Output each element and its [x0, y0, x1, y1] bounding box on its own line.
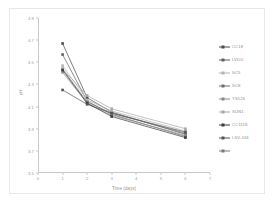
legend-swatch-icon — [219, 70, 230, 75]
data-point-marker — [184, 134, 187, 137]
legend-marker-icon — [222, 58, 225, 61]
data-point-marker — [110, 107, 113, 110]
x-axis-label: Time (days) — [38, 186, 210, 191]
data-point-marker — [61, 53, 64, 56]
y-tick-label: 4.9 — [28, 16, 34, 21]
legend-marker-icon — [222, 123, 225, 126]
x-tick-mark — [38, 173, 39, 175]
legend-item-label: LVDU — [232, 57, 243, 62]
y-tick-label: 3.9 — [28, 126, 34, 131]
data-point-marker — [110, 115, 113, 118]
data-point-marker — [61, 89, 64, 92]
plot-area: 4.94.74.54.34.13.93.73.5 01234567 — [38, 18, 210, 173]
legend-item[interactable]: CC18 — [219, 40, 263, 53]
data-point-marker — [61, 64, 64, 67]
legend-marker-icon — [222, 149, 225, 152]
x-tick-mark — [160, 173, 161, 175]
legend-item[interactable]: SC5 — [219, 66, 263, 79]
y-tick-label: 4.5 — [28, 60, 34, 65]
data-point-marker — [184, 127, 187, 130]
data-point-marker — [61, 69, 64, 72]
x-tick-mark — [111, 173, 112, 175]
x-tick-label: 1 — [61, 176, 63, 181]
legend-item-label: LSV-434 — [232, 135, 249, 140]
chart-figure: pH 4.94.74.54.34.13.93.73.5 01234567 Tim… — [0, 0, 274, 211]
x-tick-label: 7 — [209, 176, 211, 181]
legend-marker-icon — [222, 45, 225, 48]
data-point-marker — [110, 110, 113, 113]
x-tick-mark — [87, 173, 88, 175]
x-tick-mark — [210, 173, 211, 175]
legend-item[interactable] — [219, 144, 263, 157]
legend-swatch-icon — [219, 57, 230, 62]
x-tick-label: 2 — [86, 176, 88, 181]
y-tick-label: 4.1 — [28, 104, 34, 109]
legend-marker-icon — [222, 71, 225, 74]
data-point-marker — [184, 131, 187, 134]
legend-item-label: SC5 — [232, 70, 240, 75]
legend-swatch-icon — [219, 135, 230, 140]
x-tick-label: 3 — [111, 176, 113, 181]
series-line — [63, 66, 186, 131]
data-point-marker — [184, 136, 187, 139]
data-point-marker — [86, 94, 89, 97]
legend-item-label: SUN1 — [232, 109, 244, 114]
x-tick-label: 0 — [37, 176, 39, 181]
legend-marker-icon — [222, 84, 225, 87]
y-tick-label: 4.7 — [28, 38, 34, 43]
y-tick-label: 3.5 — [28, 171, 34, 176]
legend-item[interactable]: SC8 — [219, 79, 263, 92]
legend-marker-icon — [222, 110, 225, 113]
legend-item[interactable]: LVDU — [219, 53, 263, 66]
x-tick-label: 4 — [135, 176, 137, 181]
legend-swatch-icon — [219, 83, 230, 88]
legend-item[interactable]: CC1118 — [219, 118, 263, 131]
y-tick-label: 3.7 — [28, 148, 34, 153]
legend-swatch-icon — [219, 148, 230, 153]
data-point-marker — [86, 103, 89, 106]
legend-item[interactable]: SUN1 — [219, 105, 263, 118]
chart-legend: CC18LVDUSC5SC8YS126SUN1CC1118LSV-434 — [219, 40, 263, 157]
y-tick-label: 4.3 — [28, 82, 34, 87]
legend-marker-icon — [222, 136, 225, 139]
data-point-marker — [61, 42, 64, 45]
x-tick-mark — [185, 173, 186, 175]
x-tick-mark — [136, 173, 137, 175]
legend-item-label: CC18 — [232, 44, 243, 49]
legend-swatch-icon — [219, 44, 230, 49]
legend-swatch-icon — [219, 109, 230, 114]
x-tick-label: 6 — [184, 176, 186, 181]
x-tick-label: 5 — [160, 176, 162, 181]
legend-item-label: SC8 — [232, 83, 240, 88]
legend-swatch-icon — [219, 96, 230, 101]
legend-item[interactable]: LSV-434 — [219, 131, 263, 144]
data-point-marker — [110, 112, 113, 115]
legend-marker-icon — [222, 97, 225, 100]
legend-swatch-icon — [219, 122, 230, 127]
legend-item-label: YS126 — [232, 96, 245, 101]
x-tick-mark — [62, 173, 63, 175]
legend-item[interactable]: YS126 — [219, 92, 263, 105]
series-lines — [38, 18, 210, 173]
y-axis-label: pH — [18, 90, 23, 95]
legend-item-label: CC1118 — [232, 122, 247, 127]
